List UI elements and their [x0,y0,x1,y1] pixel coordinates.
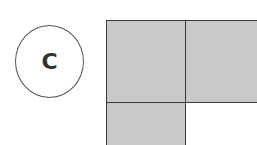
cell-top-left [106,20,186,103]
cell-bottom-left [106,102,186,145]
option-letter: C [41,51,57,73]
cell-top-right [185,20,257,103]
option-label-circle[interactable]: C [15,25,84,98]
